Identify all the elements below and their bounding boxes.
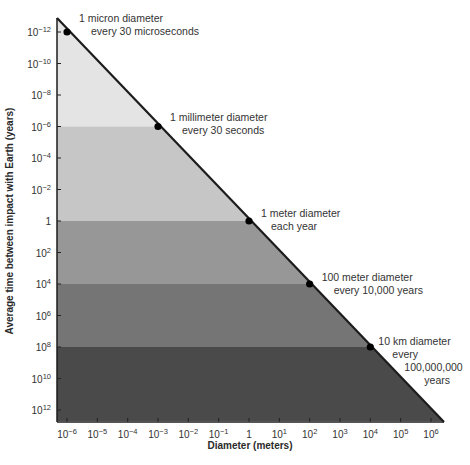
x-tick-label: 10−6: [57, 427, 77, 440]
data-point: [306, 280, 313, 287]
band: [57, 127, 447, 222]
data-point: [154, 123, 161, 130]
point-annotation: 1 micron diameter: [79, 12, 164, 24]
x-tick-label: 103: [332, 427, 347, 440]
y-tick-label: 10−2: [31, 183, 51, 196]
impact-frequency-chart: 10−1210−1010−810−610−410−211021041061081…: [0, 0, 470, 465]
y-tick-label: 104: [36, 277, 51, 290]
x-tick-label: 105: [393, 427, 408, 440]
x-axis-title: Diameter (meters): [207, 440, 292, 451]
y-tick-label: 108: [36, 340, 51, 353]
x-tick-label: 10−5: [88, 427, 108, 440]
y-tick-label: 102: [36, 246, 51, 259]
x-tick-label: 106: [423, 427, 438, 440]
data-point: [367, 343, 374, 350]
x-tick-label: 10−4: [118, 427, 138, 440]
x-tick-label: 102: [302, 427, 317, 440]
x-tick-label: 101: [272, 427, 287, 440]
point-annotation: 1 meter diameter: [261, 207, 341, 219]
x-tick-label: 10−2: [178, 427, 198, 440]
x-tick-label: 104: [363, 427, 378, 440]
point-annotation: 100 meter diameter: [322, 271, 414, 283]
y-tick-label: 10−4: [31, 151, 51, 164]
x-tick-label: 1: [246, 429, 252, 440]
y-tick-label: 10−8: [31, 88, 51, 101]
y-tick-label: 1: [45, 216, 51, 227]
point-annotation: 100,000,000: [404, 361, 463, 373]
band: [57, 347, 447, 421]
point-annotation: every 30 microseconds: [91, 25, 199, 37]
point-annotation: years: [424, 374, 450, 386]
point-annotation: every: [392, 348, 418, 360]
point-annotation: every 10,000 years: [334, 284, 423, 296]
x-tick-label: 10−1: [209, 427, 229, 440]
y-tick-label: 1010: [32, 372, 51, 385]
y-tick-label: 106: [36, 309, 51, 322]
y-tick-label: 10−10: [27, 57, 51, 70]
point-annotation: each year: [271, 220, 318, 232]
point-annotation: 1 millimeter diameter: [170, 111, 268, 123]
y-tick-label: 10−12: [27, 25, 51, 38]
x-tick-label: 10−3: [148, 427, 168, 440]
y-tick-label: 1012: [32, 403, 51, 416]
point-annotation: 10 km diameter: [378, 335, 451, 347]
data-point: [63, 28, 70, 35]
y-tick-label: 10−6: [31, 120, 51, 133]
y-axis-title: Average time between impact with Earth (…: [4, 108, 15, 335]
point-annotation: every 30 seconds: [182, 124, 264, 136]
data-point: [245, 217, 252, 224]
y-axis-ticks: 10−1210−1010−810−610−410−211021041061081…: [27, 25, 61, 416]
